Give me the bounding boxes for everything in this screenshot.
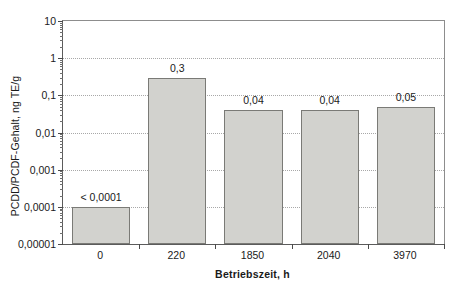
y-axis-minor-tick: [60, 25, 63, 26]
bar-value-label: 0,04: [243, 94, 263, 106]
y-axis-minor-tick: [60, 40, 63, 41]
y-axis-minor-tick: [60, 144, 63, 145]
plot-inner: 1010,10,010,0010,00010,00001< 0,00010,30…: [63, 21, 444, 244]
y-axis-minor-tick: [60, 215, 63, 216]
x-axis-title: Betriebszeit, h: [62, 268, 443, 280]
x-axis-tick-label: 2040: [317, 249, 340, 261]
y-axis-minor-tick: [60, 134, 63, 135]
y-axis-tick-label: 0,1: [41, 89, 56, 101]
y-axis-minor-tick: [60, 171, 63, 172]
bar-value-label: 0,05: [396, 91, 416, 103]
x-axis-tick-label: 220: [168, 249, 186, 261]
bar-value-label: 0,3: [170, 62, 185, 74]
y-axis-minor-tick: [60, 110, 63, 111]
y-axis-minor-tick: [60, 196, 63, 197]
y-axis-minor-tick: [60, 181, 63, 182]
y-axis-minor-tick: [60, 36, 63, 37]
y-axis-minor-tick: [60, 184, 63, 185]
y-axis-minor-tick: [60, 233, 63, 234]
y-axis-minor-tick: [60, 158, 63, 159]
bar: [301, 110, 359, 244]
y-axis-minor-tick: [60, 32, 63, 33]
y-axis-minor-tick: [60, 226, 63, 227]
y-axis-minor-tick: [60, 99, 63, 100]
y-axis-minor-tick: [60, 138, 63, 139]
y-axis-minor-tick: [60, 66, 63, 67]
bar-value-label: < 0,0001: [81, 191, 122, 203]
y-axis-tick-label: 0,001: [30, 164, 56, 176]
y-axis-tick-label: 10: [44, 15, 56, 27]
y-axis-minor-tick: [60, 60, 63, 61]
gridline: [63, 58, 444, 59]
bar: [377, 107, 435, 244]
x-axis-tick-mark: [139, 244, 140, 249]
bar: [224, 110, 282, 244]
x-axis-tick-mark: [215, 244, 216, 249]
y-axis-tick-label: 1: [50, 52, 56, 64]
y-axis-minor-tick: [60, 136, 63, 137]
y-axis-minor-tick: [60, 178, 63, 179]
y-axis-minor-tick: [60, 27, 63, 28]
x-axis-tick-mark: [368, 244, 369, 249]
y-axis-minor-tick: [60, 101, 63, 102]
plot-area: 1010,10,010,0010,00010,00001< 0,00010,30…: [62, 20, 445, 245]
y-axis-minor-tick: [60, 189, 63, 190]
y-axis-tick-label: 0,01: [36, 127, 56, 139]
x-axis-tick-label: 3970: [393, 249, 416, 261]
y-axis-minor-tick: [60, 29, 63, 30]
y-axis-minor-tick: [60, 47, 63, 48]
y-axis-minor-tick: [60, 218, 63, 219]
y-axis-minor-tick: [60, 64, 63, 65]
y-axis-minor-tick: [60, 147, 63, 148]
y-axis-minor-tick: [60, 173, 63, 174]
y-axis-minor-tick: [60, 69, 63, 70]
y-axis-minor-tick: [60, 222, 63, 223]
y-axis-tick-label: 0,00001: [18, 238, 56, 250]
y-axis-minor-tick: [60, 97, 63, 98]
y-axis-minor-tick: [60, 107, 63, 108]
y-axis-minor-tick: [60, 152, 63, 153]
x-axis-tick-mark: [444, 244, 445, 249]
y-axis-minor-tick: [60, 121, 63, 122]
y-axis-minor-tick: [60, 104, 63, 105]
y-axis-tick-mark: [58, 244, 63, 245]
bar: [72, 207, 130, 244]
y-axis-minor-tick: [60, 73, 63, 74]
y-axis-minor-tick: [60, 210, 63, 211]
x-axis-tick-label: 1850: [241, 249, 264, 261]
y-axis-minor-tick: [60, 84, 63, 85]
y-axis-minor-tick: [60, 209, 63, 210]
y-axis-minor-tick: [60, 213, 63, 214]
y-axis-tick-label: 0,0001: [24, 201, 56, 213]
bar-value-label: 0,04: [319, 94, 339, 106]
x-axis-tick-mark: [292, 244, 293, 249]
y-axis-minor-tick: [60, 141, 63, 142]
y-axis-minor-tick: [60, 78, 63, 79]
y-axis-title-text: PCDD/PCDF-Gehalt, ng TE/g: [9, 76, 21, 217]
bar: [148, 78, 206, 244]
y-axis-minor-tick: [60, 175, 63, 176]
x-axis-tick-label: 0: [97, 249, 103, 261]
y-axis-minor-tick: [60, 23, 63, 24]
chart-container: PCDD/PCDF-Gehalt, ng TE/g 1010,10,010,00…: [0, 0, 453, 292]
y-axis-minor-tick: [60, 62, 63, 63]
y-axis-minor-tick: [60, 115, 63, 116]
